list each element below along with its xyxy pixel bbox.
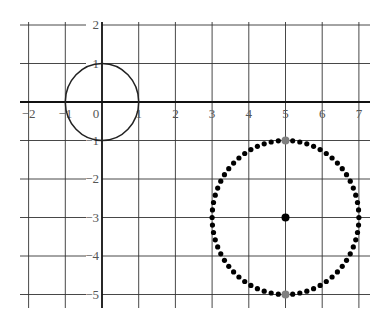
circle-dot [276,138,281,143]
circle-dot [348,179,353,184]
circle-dot [226,264,231,269]
circle-dot [335,269,340,274]
circle-dot [290,138,295,143]
highlighted-point [282,291,290,299]
circle-dot [231,269,236,274]
circle-dot [324,151,329,156]
circle-dot [211,200,216,205]
circle-dot [318,147,323,152]
circle-dot [213,193,218,198]
x-tick-label: 2 [172,106,179,121]
highlighted-point [282,137,290,145]
circle-dot [356,222,361,227]
circle-dot [211,230,216,235]
circle-dot [210,215,215,220]
circle-dot [226,166,231,171]
circle-dot [344,172,349,177]
circle-dot [355,200,360,205]
x-tick-label: 0 [93,106,100,121]
circle-dot [290,292,295,297]
x-tick-label: 5 [282,106,289,121]
circle-dot [269,139,274,144]
circle-dot [335,160,340,165]
circle-dot [351,185,356,190]
circle-dot [248,147,253,152]
circle-dot [353,193,358,198]
circle-dot [329,155,334,160]
circle-dot [242,279,247,284]
x-tick-label: 7 [356,106,363,121]
y-tick-label: −3 [85,210,99,225]
circle-dot [344,258,349,263]
circle-dot [297,290,302,295]
x-tick-label: 6 [319,106,326,121]
grid-lines [20,22,370,308]
axes [20,22,370,308]
circle-dot [222,172,227,177]
circle-dot [262,141,267,146]
y-tick-label: 2 [93,17,100,32]
circle-dot [218,179,223,184]
circle-dot [210,222,215,227]
circle-dot [348,251,353,256]
circle-dot [311,286,316,291]
circle-dot [304,289,309,294]
circle-dot [356,215,361,220]
circle-dot [304,141,309,146]
circle-dot [242,151,247,156]
circle-dot [276,292,281,297]
circle-dot [329,274,334,279]
circle-dot [236,274,241,279]
x-tick-label: 4 [246,106,253,121]
tick-labels: −2−10123456721−1−2−3−4−5 [22,17,363,302]
circle-dot [340,166,345,171]
circle-dot [215,244,220,249]
circle-dot [255,144,260,149]
y-tick-label: −2 [85,171,99,186]
circle-dot [340,264,345,269]
circle-dot [255,286,260,291]
circle-dot [210,207,215,212]
x-tick-label: −2 [22,106,36,121]
y-tick-label: −5 [85,287,99,302]
x-tick-label: 3 [209,106,216,121]
circle-dot [311,144,316,149]
circle-dot [222,258,227,263]
circle-dot [231,160,236,165]
plotted-shapes [65,64,361,299]
circle-dot [324,279,329,284]
circle-dot [318,283,323,288]
circle-dot [351,244,356,249]
circle-dot [262,289,267,294]
circle-dot [356,207,361,212]
circle-dot [248,283,253,288]
center-point [282,214,290,222]
circle-dot [215,185,220,190]
coordinate-plane: −2−10123456721−1−2−3−4−5 [0,0,387,324]
circle-dot [213,237,218,242]
circle-dot [236,155,241,160]
circle-dot [355,230,360,235]
circle-dot [297,139,302,144]
circle-dot [353,237,358,242]
circle-dot [269,290,274,295]
circle-dot [218,251,223,256]
y-tick-label: −4 [85,248,99,263]
